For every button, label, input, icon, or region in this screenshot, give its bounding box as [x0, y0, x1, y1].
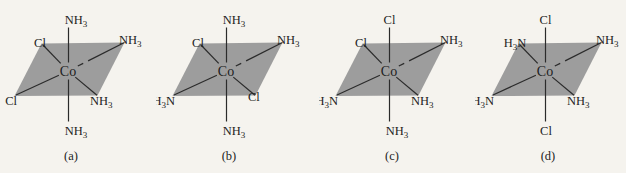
- figure-canvas: { "figure": { "central_atom": "Co", "str…: [0, 0, 626, 173]
- central-atom-label: Co: [60, 64, 76, 79]
- ligand-label-axial-top: Cl: [540, 13, 552, 27]
- central-atom-label: Co: [537, 64, 553, 79]
- ligand-label-bottom-right: NH3: [411, 94, 434, 110]
- ligand-label-bottom-left: H3N: [475, 94, 494, 110]
- ligand-label-axial-top: NH3: [223, 13, 246, 29]
- ligand-label-bottom-right: Cl: [248, 90, 260, 104]
- structure-caption: (b): [222, 149, 237, 163]
- ligand-label-top-right: NH3: [440, 33, 463, 49]
- structure-d: Co Cl Cl H3N NH3 H3N NH3 (d): [475, 0, 626, 173]
- structure-c: Co Cl NH3 Cl NH3 H3N NH3 (c): [319, 0, 476, 173]
- ligand-label-axial-bottom: NH3: [386, 124, 409, 140]
- ligand-label-top-left: Cl: [355, 36, 367, 50]
- structure-caption: (d): [541, 149, 556, 163]
- ligand-label-bottom-left: Cl: [5, 94, 17, 108]
- central-atom-label: Co: [218, 64, 234, 79]
- ligand-label-axial-top: Cl: [384, 13, 396, 27]
- ligand-label-top-left: Cl: [34, 36, 46, 50]
- central-atom-label: Co: [381, 64, 397, 79]
- ligand-label-top-right: NH3: [119, 33, 142, 49]
- ligand-label-bottom-right: NH3: [567, 94, 590, 110]
- structure-a: Co NH3 NH3 Cl NH3 Cl NH3 (a): [0, 0, 155, 173]
- ligand-label-top-left: H3N: [504, 36, 527, 52]
- ligand-label-bottom-left: H3N: [156, 94, 175, 110]
- ligand-label-axial-bottom: Cl: [540, 124, 552, 138]
- ligand-label-top-right: NH3: [277, 33, 300, 49]
- structure-caption: (a): [64, 149, 78, 163]
- ligand-label-top-right: NH3: [596, 33, 619, 49]
- ligand-label-bottom-right: NH3: [90, 94, 113, 110]
- structure-b: Co NH3 NH3 Cl NH3 H3N Cl (b): [156, 0, 313, 173]
- ligand-label-axial-top: NH3: [65, 13, 88, 29]
- structure-caption: (c): [385, 149, 399, 163]
- ligand-label-axial-bottom: NH3: [223, 124, 246, 140]
- ligand-label-bottom-left: H3N: [319, 94, 338, 110]
- ligand-label-top-left: Cl: [192, 36, 204, 50]
- ligand-label-axial-bottom: NH3: [65, 124, 88, 140]
